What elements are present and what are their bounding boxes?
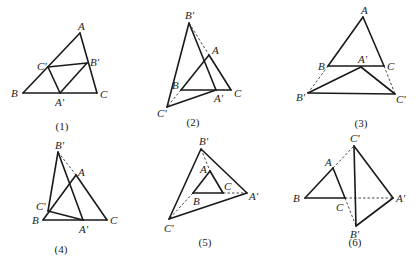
triangle-edge <box>308 93 395 94</box>
figure-caption: (5) <box>199 236 212 249</box>
vertex-label: C' <box>350 132 360 144</box>
figure-caption: (4) <box>55 243 68 256</box>
vertex-label: B <box>172 79 179 91</box>
vertex-label: C <box>110 214 118 226</box>
vertex-label: A <box>77 20 85 32</box>
vertex-label: B <box>318 60 325 72</box>
triangle-edge <box>210 171 223 193</box>
figure-caption: (3) <box>355 117 368 130</box>
triangle-edge <box>209 55 231 90</box>
triangle-figures-diagram: ABCA'B'C'(1)ABCA'B'C'(2)ABCA'B'C'(3)ABCA… <box>0 0 419 268</box>
vertex-label: B <box>293 192 300 204</box>
vertex-label: A' <box>213 92 224 104</box>
vertex-label: A <box>77 166 85 178</box>
figure-caption: (1) <box>56 120 69 133</box>
vertex-label: B <box>193 195 200 207</box>
triangle-edge <box>189 23 216 90</box>
vertex-label: C' <box>164 222 174 234</box>
figure-caption: (2) <box>187 116 200 129</box>
vertex-label: B' <box>55 139 65 151</box>
figure-caption: (6) <box>349 236 362 249</box>
vertex-label: B' <box>185 9 195 21</box>
triangle-edge <box>23 33 80 93</box>
dashed-segment <box>58 152 76 175</box>
dashed-segment <box>345 198 356 226</box>
dashed-segment <box>333 146 354 168</box>
dashed-segment <box>189 23 209 55</box>
figure-2: ABCA'B'C'(2) <box>157 9 242 129</box>
vertex-label: A' <box>357 53 368 65</box>
figure-3: ABCA'B'C'(3) <box>296 4 406 130</box>
triangle-edge <box>354 146 356 226</box>
vertex-label: B' <box>199 135 209 147</box>
triangle-edge <box>169 149 201 219</box>
vertex-label: A <box>199 163 207 175</box>
triangle-edge <box>308 67 361 93</box>
figure-6: ABCA'B'C'(6) <box>293 132 406 249</box>
vertex-label: C <box>234 87 242 99</box>
vertex-label: A' <box>78 223 89 235</box>
vertex-label: C <box>387 60 395 72</box>
vertex-label: C <box>336 201 344 213</box>
triangle-edge <box>60 63 87 93</box>
vertex-label: B <box>32 214 39 226</box>
vertex-label: B <box>11 87 18 99</box>
vertex-label: C <box>224 180 232 192</box>
figure-5: ABCA'B'C'(5) <box>164 135 259 249</box>
figure-4: ABCA'B'C'(4) <box>32 139 118 256</box>
vertex-label: C' <box>396 93 406 105</box>
triangle-edge <box>48 63 87 67</box>
vertex-label: C' <box>37 60 47 72</box>
triangle-edge <box>58 152 83 220</box>
triangle-edge <box>48 211 83 220</box>
vertex-label: A <box>324 156 332 168</box>
triangle-edge <box>305 168 333 198</box>
figure-1: ABCA'B'C'(1) <box>11 20 108 133</box>
vertex-label: C <box>100 88 108 100</box>
vertex-label: C' <box>36 200 46 212</box>
vertex-label: A <box>211 44 219 56</box>
vertex-label: C' <box>157 107 167 119</box>
triangle-edge <box>356 198 393 226</box>
triangle-edge <box>167 23 189 107</box>
triangle-edge <box>354 146 393 198</box>
triangle-edge <box>169 193 247 219</box>
vertex-label: A' <box>54 96 65 108</box>
triangle-edge <box>48 67 60 93</box>
vertex-label: B' <box>296 91 306 103</box>
vertex-label: A' <box>395 192 406 204</box>
vertex-label: A <box>360 4 368 16</box>
triangle-edge <box>333 168 345 198</box>
vertex-label: A' <box>248 190 259 202</box>
diagram-canvas: ABCA'B'C'(1)ABCA'B'C'(2)ABCA'B'C'(3)ABCA… <box>0 0 419 268</box>
vertex-label: B' <box>90 56 100 68</box>
